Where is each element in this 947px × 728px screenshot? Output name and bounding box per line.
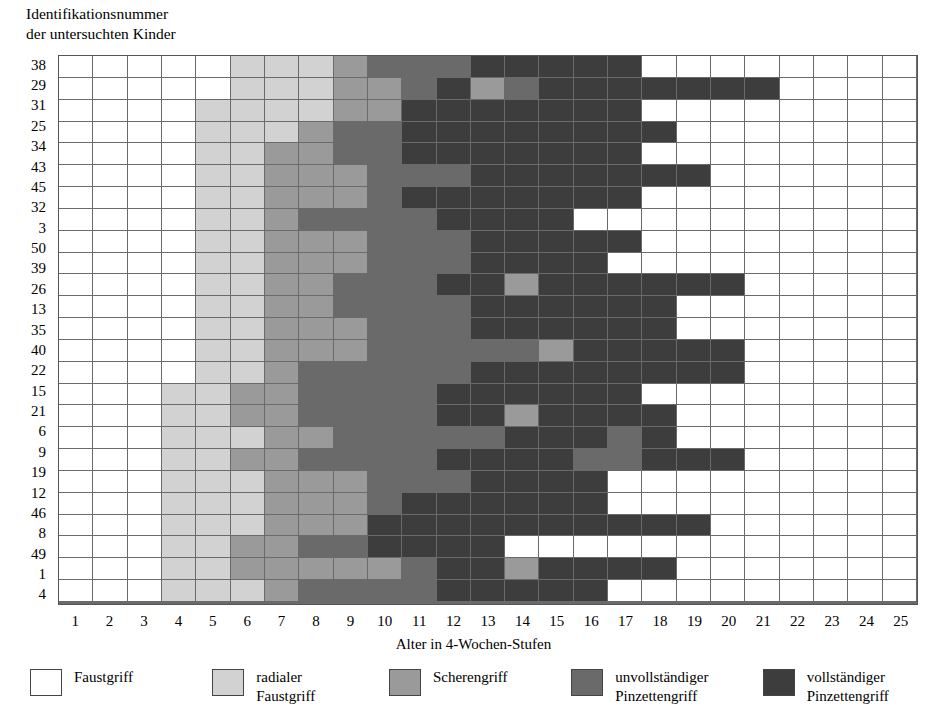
heatmap-cell bbox=[59, 100, 93, 122]
heatmap-cell bbox=[93, 493, 127, 515]
heatmap-cell bbox=[780, 449, 814, 471]
heatmap-cell bbox=[848, 405, 882, 427]
heatmap-cell bbox=[402, 56, 436, 78]
heatmap-cell bbox=[608, 340, 642, 362]
heatmap-cell bbox=[299, 253, 333, 275]
heatmap-cell bbox=[299, 493, 333, 515]
heatmap-cell bbox=[505, 187, 539, 209]
heatmap-cell bbox=[574, 449, 608, 471]
heatmap-cell bbox=[505, 493, 539, 515]
heatmap-cell bbox=[437, 56, 471, 78]
heatmap-cell bbox=[780, 515, 814, 537]
heatmap-cell bbox=[505, 274, 539, 296]
heatmap-cell bbox=[162, 231, 196, 253]
heatmap-cell bbox=[402, 187, 436, 209]
heatmap-cell bbox=[231, 318, 265, 340]
heatmap-cell bbox=[883, 471, 917, 493]
heatmap-cell bbox=[711, 515, 745, 537]
heatmap-cell bbox=[437, 122, 471, 144]
heatmap-cell bbox=[334, 274, 368, 296]
heatmap-cell bbox=[368, 515, 402, 537]
heatmap-cell bbox=[780, 471, 814, 493]
heatmap-cell bbox=[677, 405, 711, 427]
heatmap-cell bbox=[711, 493, 745, 515]
heatmap-cell bbox=[59, 384, 93, 406]
heatmap-cell bbox=[608, 362, 642, 384]
heatmap-cell bbox=[265, 296, 299, 318]
heatmap-cell bbox=[505, 536, 539, 558]
heatmap-cell bbox=[93, 580, 127, 602]
heatmap-cell bbox=[93, 471, 127, 493]
heatmap-cell bbox=[128, 340, 162, 362]
heatmap-cell bbox=[402, 100, 436, 122]
legend-label: unvollständiger Pinzettengriff bbox=[615, 668, 708, 706]
heatmap-cell bbox=[471, 471, 505, 493]
x-tick-label: 16 bbox=[574, 610, 608, 632]
heatmap-cell bbox=[780, 603, 814, 604]
heatmap-cell bbox=[745, 143, 779, 165]
heatmap-cell bbox=[334, 515, 368, 537]
heatmap-cell bbox=[299, 122, 333, 144]
heatmap-cell bbox=[711, 449, 745, 471]
heatmap-cell bbox=[437, 78, 471, 100]
x-tick-label: 9 bbox=[333, 610, 367, 632]
heatmap-cell bbox=[162, 536, 196, 558]
heatmap-cell bbox=[677, 471, 711, 493]
heatmap-cell bbox=[334, 209, 368, 231]
heatmap-cell bbox=[848, 143, 882, 165]
heatmap-cell bbox=[128, 231, 162, 253]
heatmap-cell bbox=[780, 427, 814, 449]
legend-label: Faustgriff bbox=[74, 668, 133, 687]
heatmap-cell bbox=[334, 143, 368, 165]
heatmap-cell bbox=[265, 165, 299, 187]
heatmap-cell bbox=[437, 143, 471, 165]
heatmap-cell bbox=[437, 100, 471, 122]
heatmap-cell bbox=[539, 274, 573, 296]
heatmap-cell bbox=[128, 558, 162, 580]
heatmap-cell bbox=[608, 78, 642, 100]
heatmap-cell bbox=[539, 100, 573, 122]
heatmap-cell bbox=[883, 274, 917, 296]
heatmap-cell bbox=[128, 362, 162, 384]
heatmap-cell bbox=[368, 449, 402, 471]
heatmap-cell bbox=[334, 318, 368, 340]
heatmap-cell bbox=[59, 427, 93, 449]
heatmap-cell bbox=[265, 274, 299, 296]
heatmap-cell bbox=[711, 427, 745, 449]
heatmap-cell bbox=[402, 427, 436, 449]
heatmap-cell bbox=[642, 362, 676, 384]
x-tick-label: 3 bbox=[127, 610, 161, 632]
heatmap-cell bbox=[299, 209, 333, 231]
heatmap-cell bbox=[437, 515, 471, 537]
heatmap-cell bbox=[128, 296, 162, 318]
x-tick-label: 15 bbox=[540, 610, 574, 632]
heatmap-cell bbox=[402, 515, 436, 537]
heatmap-cell bbox=[334, 122, 368, 144]
heatmap-cell bbox=[299, 580, 333, 602]
heatmap-cell bbox=[677, 340, 711, 362]
heatmap-cell bbox=[608, 405, 642, 427]
heatmap-cell bbox=[59, 318, 93, 340]
heatmap-cell bbox=[848, 471, 882, 493]
heatmap-cell bbox=[505, 209, 539, 231]
y-tick-label: 34 bbox=[0, 137, 52, 157]
heatmap-cell bbox=[711, 580, 745, 602]
heatmap-cell bbox=[539, 78, 573, 100]
heatmap-cell bbox=[59, 78, 93, 100]
heatmap-cell bbox=[814, 558, 848, 580]
heatmap-cell bbox=[231, 405, 265, 427]
heatmap-cell bbox=[677, 296, 711, 318]
heatmap-cell bbox=[59, 603, 93, 604]
heatmap-cell bbox=[368, 56, 402, 78]
heatmap-cell bbox=[711, 558, 745, 580]
heatmap-cell bbox=[299, 274, 333, 296]
heatmap-cell bbox=[608, 143, 642, 165]
heatmap-cell bbox=[608, 384, 642, 406]
heatmap-cell bbox=[128, 122, 162, 144]
x-tick-label: 21 bbox=[746, 610, 780, 632]
heatmap-cell bbox=[334, 471, 368, 493]
heatmap-cell bbox=[574, 165, 608, 187]
heatmap-cell bbox=[608, 274, 642, 296]
heatmap-cell bbox=[505, 56, 539, 78]
x-tick-label: 22 bbox=[780, 610, 814, 632]
